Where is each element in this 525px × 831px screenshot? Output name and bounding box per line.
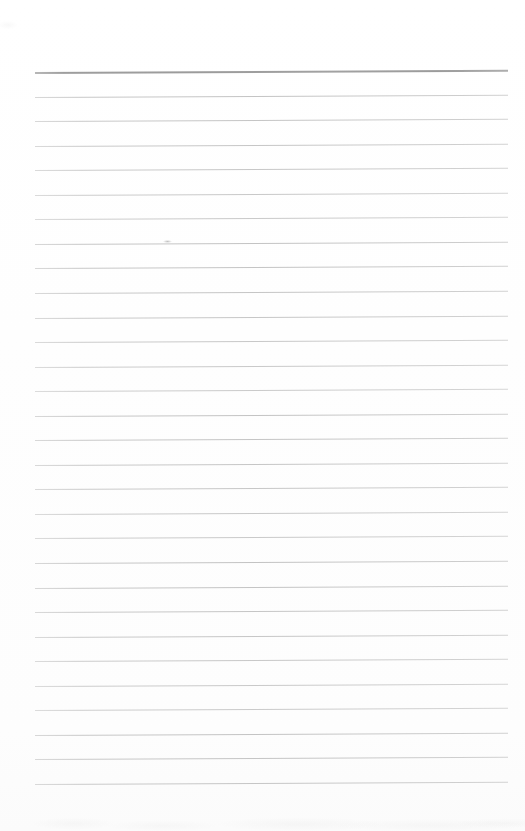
rule-line bbox=[35, 733, 508, 736]
rule-line bbox=[35, 782, 508, 785]
rule-line bbox=[35, 634, 508, 637]
rule-line bbox=[35, 585, 508, 588]
rule-line bbox=[35, 610, 508, 613]
rule-line bbox=[35, 659, 508, 662]
scanned-page bbox=[0, 0, 525, 831]
rule-line bbox=[35, 462, 508, 465]
rule-line bbox=[35, 561, 508, 564]
rule-line bbox=[35, 438, 508, 441]
header-rule-line bbox=[35, 70, 508, 74]
rule-line bbox=[35, 168, 508, 171]
rule-line bbox=[35, 757, 508, 760]
rule-line bbox=[35, 487, 508, 490]
rule-line bbox=[35, 217, 508, 220]
rule-line bbox=[35, 413, 508, 416]
rule-line bbox=[35, 683, 508, 686]
rule-line bbox=[35, 266, 508, 269]
rule-line bbox=[35, 143, 508, 146]
rule-line bbox=[35, 708, 508, 711]
rule-line bbox=[35, 291, 508, 294]
rule-line bbox=[35, 512, 508, 515]
rule-line bbox=[35, 94, 508, 97]
rule-line bbox=[35, 242, 508, 245]
rule-line bbox=[35, 315, 508, 318]
rule-line bbox=[35, 389, 508, 392]
rule-line bbox=[35, 192, 508, 195]
rule-line bbox=[35, 340, 508, 343]
rule-line bbox=[35, 536, 508, 539]
rule-line bbox=[35, 364, 508, 367]
ruled-lines-layer bbox=[0, 0, 525, 831]
rule-line bbox=[35, 119, 508, 122]
